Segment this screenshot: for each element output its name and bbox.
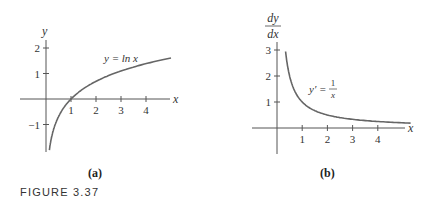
y-tick-label: 3 <box>266 44 272 56</box>
x-tick-label: 4 <box>143 104 149 116</box>
x-tick-label: 3 <box>350 133 356 145</box>
annotation-denominator: x <box>330 90 335 100</box>
x-tick-label: 1 <box>299 133 305 145</box>
y-tick-label: 1 <box>266 96 272 108</box>
x-tick-label: 2 <box>93 104 99 116</box>
reciprocal-curve <box>286 52 411 124</box>
x-axis-label: x <box>407 121 414 135</box>
x-tick-label: 1 <box>68 104 74 116</box>
x-tick-label: 2 <box>325 133 331 145</box>
y-label-numerator: dy <box>267 11 279 25</box>
panel-label-b: (b) <box>320 166 335 180</box>
panel-b-derivative-graph: 1234 123 x dy dx y′ = 1 x (b) <box>252 11 414 180</box>
y-axis-label-fraction: dy dx <box>265 11 281 41</box>
y-tick-label: 2 <box>266 70 272 82</box>
curve-annotation: y = ln x <box>103 52 138 64</box>
x-axis-label: x <box>172 92 179 106</box>
annotation-numerator: 1 <box>331 78 336 88</box>
y-label-denominator: dx <box>267 27 279 41</box>
y-tick-label: 1 <box>35 68 41 80</box>
x-tick-label: 3 <box>118 104 124 116</box>
y-ticks: 123 <box>266 44 281 108</box>
y-tick-label: −1 <box>28 119 40 131</box>
curve-annotation: y′ = 1 x <box>308 78 337 100</box>
y-tick-label: 2 <box>35 42 41 54</box>
y-axis-label: y <box>41 24 48 38</box>
panel-label-a: (a) <box>88 166 102 180</box>
x-tick-label: 4 <box>375 133 381 145</box>
panel-a-ln-graph: 1234 −112 x y y = ln x (a) <box>20 24 179 180</box>
annotation-lhs: y′ = <box>308 83 326 95</box>
figure-caption: FIGURE 3.37 <box>20 186 99 198</box>
figure-canvas: 1234 −112 x y y = ln x (a) 1234 123 x dy… <box>0 0 432 209</box>
